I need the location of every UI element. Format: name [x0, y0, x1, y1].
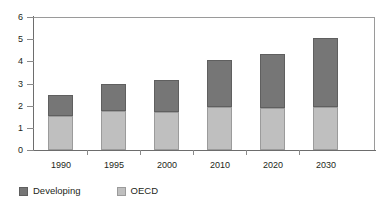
- x-axis-tick-label: 1990: [34, 160, 88, 170]
- bar-segment-developing: [313, 38, 338, 107]
- x-tick-mark: [193, 150, 194, 155]
- stacked-bar-chart: 0 1 2 3 4 5 6 1990 1995 2000 2010 2020 2…: [0, 0, 385, 211]
- bar-segment-oecd: [260, 108, 285, 150]
- y-tick-mark: [27, 84, 34, 85]
- x-axis-tick-label: 2020: [246, 160, 300, 170]
- x-tick-mark: [299, 150, 300, 155]
- bar-segment-developing: [260, 54, 285, 109]
- y-tick-mark: [27, 17, 34, 18]
- y-tick-mark: [27, 39, 34, 40]
- legend-item-developing: Developing: [19, 186, 81, 196]
- bar-group: [101, 17, 126, 150]
- y-axis-tick-label: 6: [0, 13, 23, 22]
- legend-swatch-developing-icon: [19, 187, 28, 196]
- y-axis-tick-label: 3: [0, 80, 23, 89]
- chart-legend: Developing OECD: [19, 186, 158, 196]
- bar-segment-developing: [48, 95, 73, 116]
- y-tick-mark: [27, 128, 34, 129]
- x-tick-mark: [246, 150, 247, 155]
- x-tick-mark: [140, 150, 141, 155]
- bar-segment-developing: [154, 80, 179, 112]
- y-tick-mark: [27, 106, 34, 107]
- bar-group: [48, 17, 73, 150]
- y-tick-mark: [27, 61, 34, 62]
- x-axis-line: [27, 150, 376, 151]
- x-axis-tick-label: 2010: [193, 160, 247, 170]
- bar-group: [207, 17, 232, 150]
- bar-segment-oecd: [207, 107, 232, 150]
- legend-item-oecd: OECD: [117, 186, 158, 196]
- y-tick-mark: [27, 150, 34, 151]
- bar-segment-developing: [207, 60, 232, 107]
- legend-label-developing: Developing: [33, 186, 81, 196]
- y-axis-tick-label: 4: [0, 57, 23, 66]
- y-axis-tick-label: 1: [0, 124, 23, 133]
- bar-segment-oecd: [313, 107, 338, 150]
- bar-segment-oecd: [48, 116, 73, 150]
- y-axis-tick-label: 0: [0, 146, 23, 155]
- y-axis-tick-label: 2: [0, 102, 23, 111]
- y-axis-tick-label: 5: [0, 35, 23, 44]
- bar-segment-oecd: [154, 112, 179, 150]
- legend-label-oecd: OECD: [131, 186, 158, 196]
- x-axis-tick-label: 1995: [87, 160, 141, 170]
- x-tick-mark: [87, 150, 88, 155]
- legend-swatch-oecd-icon: [117, 187, 126, 196]
- bar-group: [154, 17, 179, 150]
- bar-segment-developing: [101, 84, 126, 112]
- x-axis-tick-label: 2030: [299, 160, 353, 170]
- bar-segment-oecd: [101, 111, 126, 150]
- x-axis-tick-label: 2000: [140, 160, 194, 170]
- bar-group: [313, 17, 338, 150]
- bar-group: [260, 17, 285, 150]
